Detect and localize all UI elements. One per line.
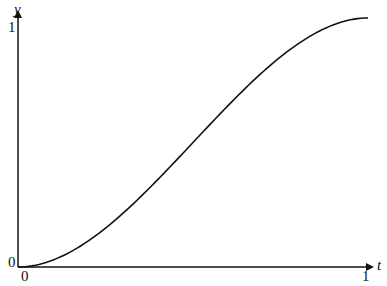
y-axis-label: y	[12, 1, 21, 17]
y-tick-1: 1	[8, 19, 16, 35]
x-tick-0: 0	[21, 268, 29, 284]
x-axis-label: t	[377, 257, 382, 273]
x-tick-1: 1	[362, 268, 370, 284]
s-curve	[18, 18, 368, 267]
chart: y 1 0 0 1 t	[0, 0, 387, 286]
y-tick-0: 0	[8, 254, 16, 270]
